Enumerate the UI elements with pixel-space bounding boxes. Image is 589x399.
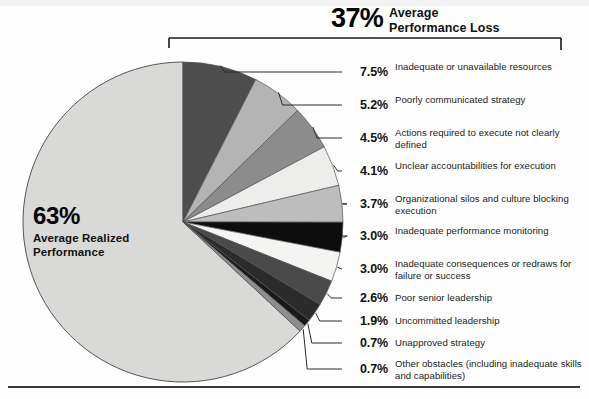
leader-line	[303, 329, 342, 369]
callout-percent: 3.7%	[340, 197, 388, 211]
callout-percent: 4.5%	[340, 131, 388, 145]
loss-bracket	[169, 38, 561, 50]
callout-percent: 0.7%	[340, 362, 388, 376]
callout-label: Other obstacles (including inadequate sk…	[395, 358, 587, 382]
chart-canvas: 37% Average Performance Loss 63% Average…	[0, 0, 589, 399]
callout-percent: 4.1%	[340, 164, 388, 178]
loss-caption-line2: Performance Loss	[389, 21, 500, 36]
realized-caption-line1: Average Realized	[33, 231, 129, 245]
leader-line	[308, 324, 342, 343]
callout-label: Uncommitted leadership	[395, 315, 587, 327]
callout-percent: 3.0%	[340, 262, 388, 276]
callout-percent: 1.9%	[340, 314, 388, 328]
realized-caption: Average Realized Performance	[33, 231, 129, 260]
realized-percent: 63%	[33, 204, 80, 228]
loss-caption: Average Performance Loss	[389, 6, 500, 37]
callout-label: Unclear accountabilities for execution	[395, 160, 587, 172]
callout-percent: 0.7%	[340, 336, 388, 350]
callout-percent: 3.0%	[340, 229, 388, 243]
callout-label: Poor senior leadership	[395, 292, 587, 304]
loss-percent: 37%	[331, 5, 383, 32]
callout-label: Unapproved strategy	[395, 337, 587, 349]
callout-label: Actions required to execute not clearly …	[395, 127, 587, 151]
callout-percent: 5.2%	[340, 98, 388, 112]
callout-label: Inadequate consequences or redraws for f…	[395, 258, 587, 282]
loss-caption-line1: Average	[389, 6, 500, 21]
callout-percent: 2.6%	[340, 291, 388, 305]
callout-label: Inadequate or unavailable resources	[395, 61, 587, 73]
leader-line	[316, 313, 342, 321]
callout-label: Organizational silos and culture blockin…	[395, 193, 587, 217]
realized-caption-line2: Performance	[33, 245, 129, 259]
callout-percent: 7.5%	[340, 65, 388, 79]
leader-line	[221, 66, 342, 73]
callout-label: Poorly communicated strategy	[395, 94, 587, 106]
callout-label: Inadequate performance monitoring	[395, 225, 587, 237]
